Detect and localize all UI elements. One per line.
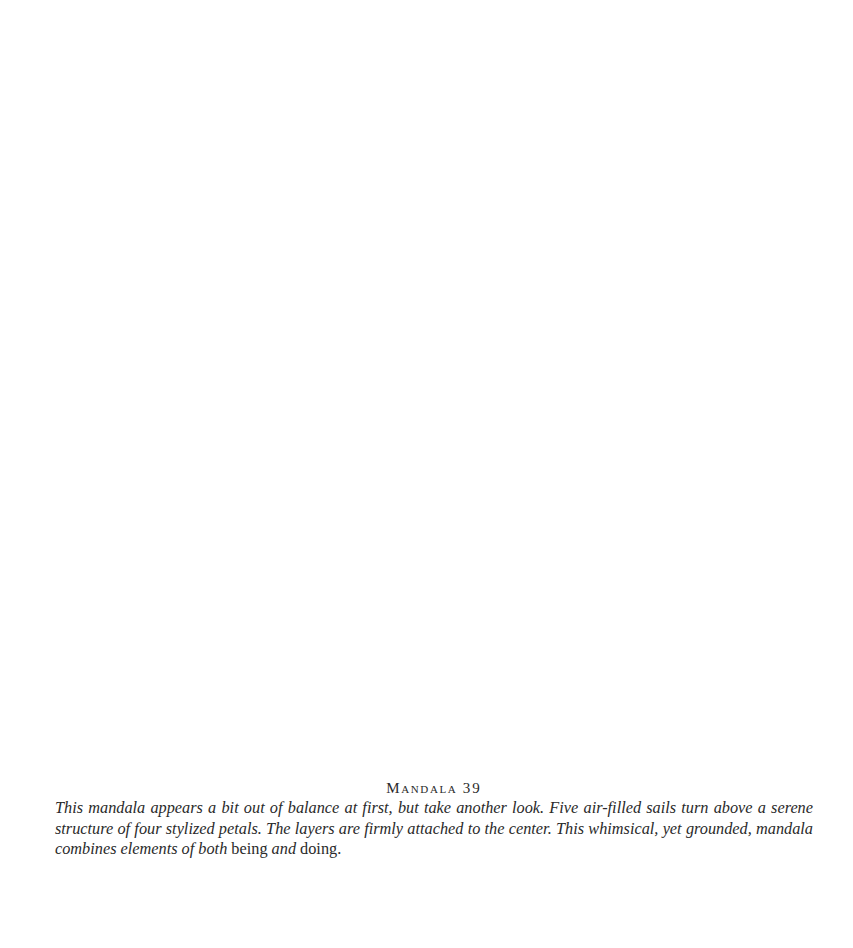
caption-segment-and: and: [272, 839, 296, 858]
caption-segment-main: This mandala appears a bit out of balanc…: [55, 798, 813, 858]
figure-caption: Mandala 39 This mandala appears a bit ou…: [55, 778, 813, 860]
figure-title: Mandala 39: [55, 778, 813, 798]
figure-number: 39: [463, 780, 482, 796]
caption-segment-doing: doing.: [296, 839, 341, 858]
figure-title-label: Mandala: [386, 780, 457, 796]
document-page: Mandala 39 This mandala appears a bit ou…: [0, 0, 853, 948]
mandala-illustration-area: [0, 0, 853, 775]
figure-description: This mandala appears a bit out of balanc…: [55, 798, 813, 860]
caption-segment-being: being: [227, 839, 271, 858]
